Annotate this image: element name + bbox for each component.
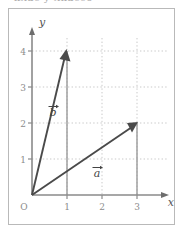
- top-caption-text: клас у лкассе: [14, 0, 93, 3]
- y-axis-label: y: [38, 16, 46, 29]
- x-axis-label: x: [168, 196, 175, 209]
- vector-b-label-overbar-arrowhead: [56, 105, 59, 108]
- y-tick-label-1: 1: [20, 155, 26, 165]
- y-tick-label-2: 2: [20, 119, 26, 129]
- vector-diagram: 4 3 2 1 1 2 3 O y x b a: [8, 8, 175, 225]
- y-tick-label-3: 3: [20, 83, 26, 93]
- clipped-top-caption: клас у лкассе: [0, 0, 194, 5]
- y-tick-label-4: 4: [20, 47, 26, 57]
- origin-label: O: [20, 202, 27, 212]
- vector-a-label: a: [94, 167, 101, 180]
- y-axis-arrowhead: [29, 27, 35, 35]
- vector-a-label-group: a: [93, 166, 104, 180]
- x-tick-label-2: 2: [99, 202, 105, 212]
- figure-root: клас у лкассе: [0, 0, 194, 238]
- grid-vertical-lines: [67, 38, 137, 195]
- x-tick-label-3: 3: [134, 202, 140, 212]
- x-tick-label-1: 1: [64, 202, 70, 212]
- vector-b-label-group: b: [49, 105, 60, 119]
- vector-b-label: b: [49, 106, 56, 119]
